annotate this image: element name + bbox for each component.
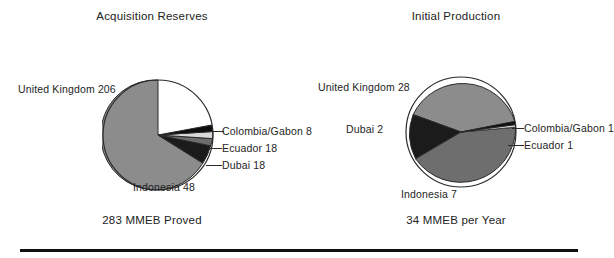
pie-svg-right	[405, 76, 517, 188]
pie-label-dubai-right: Dubai 2	[346, 124, 383, 136]
horizontal-rule	[20, 249, 578, 252]
pie-chart-initial-production	[405, 76, 517, 188]
panel-caption-acquisition-reserves: 283 MMEB Proved	[0, 214, 304, 226]
panel-title-acquisition-reserves: Acquisition Reserves	[0, 10, 304, 22]
pie-label-colombia-gabon-left: Colombia/Gabon 8	[222, 126, 312, 138]
pie-label-indonesia-right: Indonesia 7	[401, 189, 457, 201]
pie-label-indonesia-left: Indonesia 48	[133, 182, 195, 194]
leader-line-colombia-gabon-right	[512, 128, 524, 129]
pie-label-dubai-left: Dubai 18	[222, 160, 265, 172]
panel-caption-initial-production: 34 MMEB per Year	[304, 214, 608, 226]
pie-label-ecuador-right: Ecuador 1	[524, 140, 573, 152]
leader-line-ecuador-right	[508, 145, 524, 146]
leader-line-dubai-left	[206, 165, 222, 166]
pie-chart-acquisition-reserves	[102, 79, 214, 191]
pie-svg-left	[102, 79, 214, 191]
pie-label-united-kingdom-right: United Kingdom 28	[318, 82, 410, 94]
pie-label-colombia-gabon-right: Colombia/Gabon 1	[524, 123, 614, 135]
panel-title-initial-production: Initial Production	[304, 10, 608, 22]
leader-line-ecuador-left	[210, 148, 222, 149]
pie-label-united-kingdom-left: United Kingdom 206	[18, 84, 116, 96]
pie-label-ecuador-left: Ecuador 18	[222, 143, 277, 155]
